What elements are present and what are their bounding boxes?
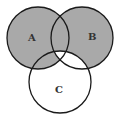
label-b: B: [88, 31, 96, 42]
label-a: A: [27, 32, 36, 43]
venn-diagram: A B C: [0, 0, 122, 122]
label-c: C: [55, 84, 63, 95]
